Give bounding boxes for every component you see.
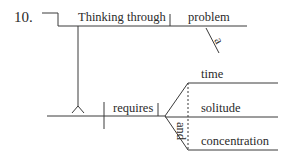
item-number: 10. (14, 9, 33, 25)
gerund-object-label: problem (188, 10, 230, 24)
gerund-label: Thinking through (78, 10, 167, 24)
object-label-2: solitude (201, 101, 241, 115)
modifier-label: a (211, 35, 226, 47)
gerund-step-line (42, 13, 58, 26)
verb-label: requires (113, 101, 153, 115)
conjunction-label: and (174, 122, 188, 141)
pedestal-foot (72, 106, 84, 113)
object-label-3: concentration (201, 134, 270, 148)
fork-upper (165, 83, 188, 116)
object-label-1: time (201, 67, 224, 81)
sentence-diagram: 10. Thinking through problem a requires … (0, 0, 292, 161)
